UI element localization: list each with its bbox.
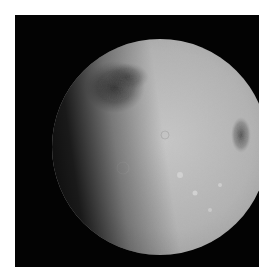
photo-frame [15, 15, 259, 267]
terminator-shadow [15, 15, 259, 267]
moon-disk [15, 15, 259, 267]
moon-image [15, 15, 259, 267]
